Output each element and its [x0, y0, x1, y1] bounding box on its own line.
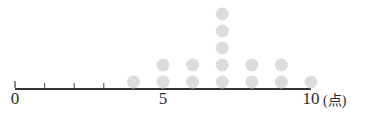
dot-plot-canvas: 0510(点): [0, 0, 365, 114]
tick-label-5: 5: [159, 89, 168, 108]
dot-plot-figure: 0510(点): [0, 0, 365, 114]
data-dot: [216, 25, 229, 38]
data-dot: [216, 76, 229, 89]
data-dot: [216, 8, 229, 21]
data-dot: [275, 76, 288, 89]
data-dot: [157, 59, 170, 72]
axis-tick-labels: 0510(点): [11, 89, 347, 109]
tick-label-0: 0: [11, 89, 20, 108]
data-dot: [127, 76, 140, 89]
tick-label-10: 10: [303, 89, 320, 108]
data-dot: [216, 42, 229, 55]
data-dot: [157, 76, 170, 89]
data-dot: [275, 59, 288, 72]
data-dot: [186, 76, 199, 89]
data-dot: [216, 59, 229, 72]
data-dot: [186, 59, 199, 72]
data-dot: [305, 76, 318, 89]
data-dot: [245, 59, 258, 72]
data-dot: [245, 76, 258, 89]
data-dots-group: [127, 8, 318, 89]
x-axis-unit-label: (点): [323, 93, 347, 109]
